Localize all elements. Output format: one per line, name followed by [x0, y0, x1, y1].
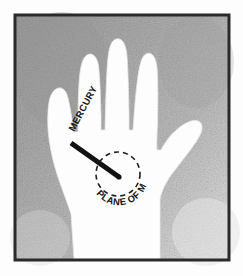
palmistry-figure: MERCURY PLANE OF MARS	[0, 0, 243, 276]
mercury-line-endpoint	[116, 174, 121, 179]
palm-diagram-canvas: MERCURY PLANE OF MARS	[0, 0, 243, 276]
